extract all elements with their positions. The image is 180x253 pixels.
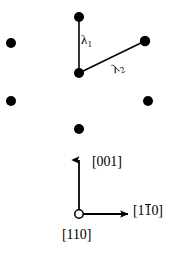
lambda1-label: λ1 — [81, 33, 92, 49]
axis-label-110: [110] — [62, 228, 91, 242]
axis-001-bracket-close: ] — [117, 154, 122, 169]
atom-left-lower — [6, 96, 16, 106]
axis-1bar10-digit-1: 1 — [138, 203, 145, 218]
atom-left-upper — [6, 38, 16, 48]
lambda1-subscript: 1 — [87, 39, 92, 49]
crystal-lattice-figure: λ1 λ2 [001] [110] [110] — [0, 0, 180, 253]
axis-label-001: [001] — [92, 155, 122, 169]
atom-right-lower — [143, 96, 153, 106]
axis-1bar10-bracket-close: ] — [158, 203, 163, 218]
axis-110-digits: 110 — [67, 227, 87, 242]
atom-bottom-center — [74, 124, 84, 134]
axis-label-1bar10: [110] — [133, 204, 163, 218]
axis-110-bracket-close: ] — [87, 227, 92, 242]
axis-1bar10-digit-2-overbar: 1 — [144, 204, 151, 218]
axis-001-digits: 001 — [97, 154, 118, 169]
axis-origin-marker — [75, 210, 83, 218]
